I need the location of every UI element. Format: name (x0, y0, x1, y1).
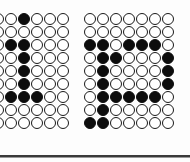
filled-dot (5, 39, 17, 51)
empty-dot (0, 39, 4, 51)
empty-dot (162, 117, 174, 129)
filled-dot (123, 91, 135, 103)
empty-dot (44, 104, 56, 116)
empty-dot (31, 52, 43, 64)
empty-dot (110, 39, 122, 51)
empty-dot (84, 65, 96, 77)
empty-dot (123, 52, 135, 64)
empty-dot (44, 78, 56, 90)
empty-dot (5, 13, 17, 25)
empty-dot (57, 13, 69, 25)
filled-dot (97, 65, 109, 77)
empty-dot (31, 39, 43, 51)
empty-dot (149, 13, 161, 25)
empty-dot (136, 26, 148, 38)
filled-dot (162, 52, 174, 64)
empty-dot (136, 104, 148, 116)
filled-dot (136, 39, 148, 51)
empty-dot (123, 65, 135, 77)
empty-dot (149, 104, 161, 116)
empty-dot (0, 65, 4, 77)
empty-dot (31, 13, 43, 25)
empty-dot (31, 104, 43, 116)
filled-dot (110, 52, 122, 64)
filled-dot (31, 91, 43, 103)
empty-dot (97, 26, 109, 38)
filled-dot (162, 78, 174, 90)
empty-dot (123, 104, 135, 116)
empty-dot (123, 78, 135, 90)
empty-dot (0, 117, 4, 129)
empty-dot (162, 13, 174, 25)
filled-dot (136, 91, 148, 103)
empty-dot (5, 117, 17, 129)
empty-dot (0, 104, 4, 116)
empty-dot (149, 52, 161, 64)
empty-dot (84, 104, 96, 116)
empty-dot (123, 13, 135, 25)
empty-dot (18, 26, 30, 38)
empty-dot (162, 104, 174, 116)
empty-dot (57, 117, 69, 129)
empty-dot (57, 91, 69, 103)
empty-dot (84, 13, 96, 25)
empty-dot (44, 13, 56, 25)
empty-dot (44, 65, 56, 77)
empty-dot (110, 78, 122, 90)
empty-dot (0, 26, 4, 38)
empty-dot (136, 117, 148, 129)
empty-dot (136, 78, 148, 90)
empty-dot (57, 26, 69, 38)
empty-dot (149, 117, 161, 129)
empty-dot (44, 91, 56, 103)
horizontal-rule-shadow (0, 157, 190, 158)
empty-dot (44, 26, 56, 38)
filled-dot (97, 91, 109, 103)
empty-dot (44, 39, 56, 51)
empty-dot (162, 39, 174, 51)
empty-dot (5, 78, 17, 90)
empty-dot (149, 26, 161, 38)
empty-dot (110, 13, 122, 25)
filled-dot (18, 91, 30, 103)
filled-dot (97, 39, 109, 51)
empty-dot (162, 91, 174, 103)
empty-dot (5, 26, 17, 38)
filled-dot (18, 52, 30, 64)
empty-dot (0, 52, 4, 64)
filled-dot (97, 52, 109, 64)
empty-dot (123, 117, 135, 129)
filled-dot (18, 65, 30, 77)
filled-dot (149, 39, 161, 51)
empty-dot (57, 65, 69, 77)
empty-dot (84, 91, 96, 103)
empty-dot (57, 104, 69, 116)
empty-dot (0, 91, 4, 103)
empty-dot (31, 65, 43, 77)
filled-dot (97, 104, 109, 116)
filled-dot (18, 13, 30, 25)
empty-dot (84, 52, 96, 64)
empty-dot (149, 65, 161, 77)
empty-dot (57, 39, 69, 51)
empty-dot (84, 78, 96, 90)
empty-dot (5, 104, 17, 116)
empty-dot (97, 13, 109, 25)
empty-dot (136, 65, 148, 77)
empty-dot (44, 117, 56, 129)
empty-dot (136, 13, 148, 25)
empty-dot (136, 52, 148, 64)
empty-dot (84, 26, 96, 38)
empty-dot (123, 26, 135, 38)
empty-dot (57, 52, 69, 64)
empty-dot (110, 117, 122, 129)
empty-dot (0, 13, 4, 25)
filled-dot (123, 39, 135, 51)
empty-dot (110, 65, 122, 77)
empty-dot (5, 52, 17, 64)
filled-dot (5, 91, 17, 103)
filled-dot (97, 117, 109, 129)
empty-dot (110, 26, 122, 38)
filled-dot (97, 78, 109, 90)
empty-dot (31, 26, 43, 38)
